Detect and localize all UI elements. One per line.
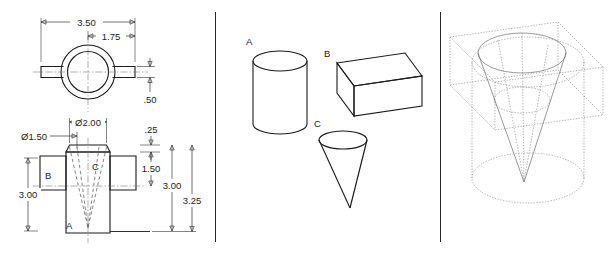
dim-text-cone-top-dia: Ø2.00 — [75, 117, 101, 128]
assembly-cone-mid-ellipse — [494, 87, 550, 113]
dim-text-overall-height: 3.25 — [183, 195, 202, 206]
dim-text-block-width-left: 3.00 — [19, 189, 38, 200]
block-front-face — [354, 76, 422, 116]
assembly-cone-left-edge — [478, 53, 524, 182]
dim-text-block-height: 1.50 — [142, 163, 161, 174]
primitive-label-b: B — [324, 48, 330, 59]
top-view-geometry — [33, 36, 148, 112]
primitive-rectangular-block: B — [324, 48, 422, 116]
dim-text-cyl-height: 3.00 — [163, 180, 182, 191]
dim-text-tab-to-center: 1.75 — [102, 31, 121, 42]
primitive-label-a: A — [246, 36, 253, 47]
front-view-left-wing — [40, 156, 66, 190]
assembly-svg — [440, 0, 613, 254]
front-view-bore-left-edge — [77, 147, 88, 228]
front-view-bore-right-edge — [88, 147, 99, 228]
dim-text-top-step: .25 — [144, 124, 157, 135]
assembly-block — [450, 22, 603, 130]
primitives-svg: A B C — [215, 0, 440, 254]
cylinder-top-ellipse — [253, 51, 307, 71]
primitive-label-c: C — [314, 118, 321, 129]
cone-base-ellipse — [319, 131, 367, 149]
front-view-label-c: C — [92, 161, 99, 172]
assembly-block-bottom-face — [450, 70, 603, 130]
assembly-cone-axis-line — [522, 33, 524, 182]
wireframe-assembly-panel — [440, 0, 613, 254]
assembly-cone-inner-left — [498, 40, 524, 182]
block-left-face — [337, 63, 354, 116]
dim-text-tab-thickness: .50 — [143, 94, 156, 105]
cone-left-edge — [319, 140, 350, 208]
primitive-solids-panel: A B C — [215, 0, 440, 254]
assembly-cylinder-bottom-ellipse — [472, 153, 584, 203]
assembly-cone — [478, 33, 566, 182]
primitive-cylinder: A — [246, 36, 307, 134]
top-view-dimensions: 3.50 1.75 .50 — [41, 16, 157, 106]
dim-text-bore-dia: Ø1.50 — [21, 131, 47, 142]
dim-text-overall-width: 3.50 — [77, 17, 96, 28]
primitive-cone: C — [314, 118, 367, 208]
orthographic-svg: 3.50 1.75 .50 — [0, 0, 215, 254]
assembly-cylinder-top-ellipse — [472, 37, 584, 87]
assembly-cylinder — [472, 37, 584, 203]
front-view-label-a: A — [66, 220, 73, 231]
orthographic-views-panel: 3.50 1.75 .50 — [0, 0, 215, 254]
cone-right-edge — [350, 140, 367, 208]
front-view-right-wing — [110, 156, 136, 190]
assembly-cone-inner-right — [524, 45, 548, 182]
drawing-sheet: 3.50 1.75 .50 — [0, 0, 613, 254]
front-view-label-b: B — [45, 170, 51, 181]
cylinder-bottom-arc — [253, 124, 307, 134]
front-view-geometry: A B C — [33, 138, 150, 243]
